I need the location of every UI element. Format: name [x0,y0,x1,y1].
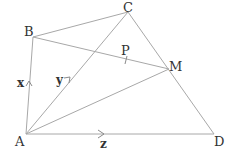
label-P: P [121,43,130,58]
label-D: D [214,134,224,149]
vector-label-x: x [17,76,25,90]
edge-AC [26,12,128,134]
label-C: C [123,0,133,15]
quadrilateral-vector-diagram: A B C D M P x y z [0,0,239,160]
arrowhead-x-icon [26,81,32,86]
edge-BC [33,12,128,37]
edge-AM [26,69,169,134]
label-B: B [24,24,34,39]
vector-label-y: y [55,73,64,87]
label-A: A [14,134,25,149]
arrowhead-y-icon [64,77,70,83]
vector-label-z: z [100,137,107,151]
label-M: M [169,59,182,74]
